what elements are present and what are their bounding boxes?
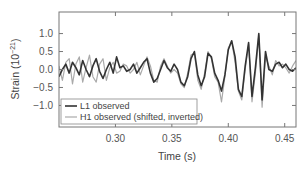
y-axis-title-exp: −21 [9, 42, 16, 54]
strain-chart: 0.300.350.400.451.00.50.0−0.5−1.0 L1 obs… [0, 0, 307, 169]
legend: L1 observed H1 observed (shifted, invert… [61, 99, 203, 124]
x-tick-label: 0.30 [106, 133, 126, 144]
y-axis-title: Strain (10−21) [9, 39, 21, 100]
x-tick-label: 0.35 [162, 133, 182, 144]
y-axis-title-close: ) [9, 39, 21, 43]
y-axis-title-base: Strain (10 [9, 54, 21, 100]
legend-label-l1: L1 observed [80, 101, 130, 111]
y-tick-label: −0.5 [33, 82, 53, 93]
series-layer [59, 34, 296, 108]
series-l1-line [59, 34, 296, 100]
x-tick-label: 0.45 [275, 133, 295, 144]
y-tick-label: 0.0 [39, 64, 53, 75]
y-tick-label: 0.5 [39, 46, 53, 57]
legend-label-h1: H1 observed (shifted, inverted) [80, 112, 203, 122]
x-tick-label: 0.40 [219, 133, 239, 144]
y-tick-label: −1.0 [33, 100, 53, 111]
x-axis-title: Time (s) [158, 150, 196, 162]
y-tick-label: 1.0 [39, 28, 53, 39]
